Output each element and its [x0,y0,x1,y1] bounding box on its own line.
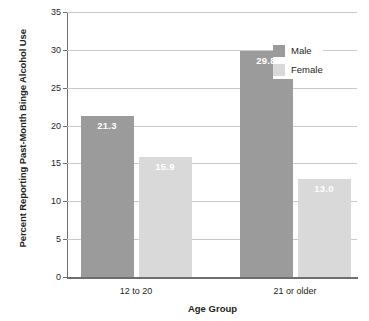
bar-male-0: 21.3 [81,116,134,277]
bar-male-1: 29.8 [240,51,293,277]
legend-label-male: Male [291,45,312,56]
y-tick-mark [63,277,67,278]
legend-label-female: Female [291,64,323,75]
y-tick-label: 5 [36,234,61,244]
x-axis-line [67,277,358,279]
x-tick-label: 21 or older [245,286,345,296]
y-tick-label: 30 [36,45,61,55]
y-tick-label: 10 [36,196,61,206]
y-tick-label: 35 [36,7,61,17]
y-tick-label: 20 [36,121,61,131]
bar-value-label: 13.0 [298,183,351,194]
legend: Male Female [273,41,323,79]
y-tick-label: 15 [36,158,61,168]
legend-item-female: Female [273,60,323,79]
bar-value-label: 15.9 [139,161,192,172]
bar-female-1: 13.0 [298,179,351,277]
legend-swatch-female-icon [273,64,285,76]
bar-value-label: 21.3 [81,120,134,131]
y-axis-title: Percent Reporting Past-Month Binge Alcoh… [17,23,30,253]
y-tick-label: 25 [36,83,61,93]
x-tick-label: 12 to 20 [86,286,186,296]
legend-item-male: Male [273,41,323,60]
y-tick-label: 0 [36,272,61,282]
bar-chart: Percent Reporting Past-Month Binge Alcoh… [0,0,369,321]
legend-swatch-male-icon [273,45,285,57]
x-axis-title: Age Group [67,303,358,314]
bar-female-0: 15.9 [139,157,192,277]
